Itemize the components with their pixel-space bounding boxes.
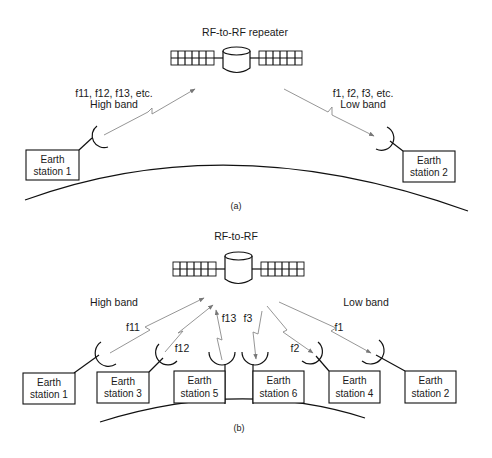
earth-station-5-b: Earth station 5 — [174, 352, 235, 404]
svg-text:Earth: Earth — [267, 375, 291, 386]
earth-surface-curve — [25, 165, 468, 211]
svg-text:station 6: station 6 — [260, 388, 298, 399]
freq-label-f1: f1 — [335, 321, 344, 333]
signal-arrow-f3 — [253, 311, 262, 359]
high-band-label: High band — [90, 98, 138, 110]
svg-text:Earth: Earth — [41, 154, 65, 165]
satellite-icon — [173, 252, 304, 284]
dish-antenna-icon — [92, 126, 108, 148]
earth-station-3-b: Earth station 3 — [97, 344, 177, 403]
earth-station-2-a: Earth station 2 — [376, 127, 455, 182]
freq-label-f13: f13 — [222, 312, 237, 324]
satellite-diagram: RF-to-RF repeater f11, f12, f13, etc. Hi… — [0, 0, 492, 458]
svg-text:Earth: Earth — [188, 375, 212, 386]
satellite-label-a: RF-to-RF repeater — [202, 26, 288, 38]
svg-text:station 5: station 5 — [181, 388, 219, 399]
high-band-label: High band — [90, 296, 138, 308]
caption-a: (a) — [231, 201, 242, 211]
svg-text:station 1: station 1 — [34, 166, 72, 177]
freq-label-f12: f12 — [175, 342, 190, 354]
low-band-label: Low band — [340, 98, 386, 110]
svg-text:Earth: Earth — [417, 155, 441, 166]
satellite-label-b: RF-to-RF — [214, 230, 258, 242]
freq-label-f11: f11 — [126, 321, 140, 333]
earth-station-1-a: Earth station 1 — [26, 126, 108, 180]
diagram-b: RF-to-RF High band Low band f11 f12 — [23, 230, 456, 433]
satellite-icon — [171, 47, 302, 73]
earth-station-6-b: Earth station 6 — [242, 352, 304, 404]
dish-antenna-icon — [362, 340, 384, 364]
dish-antenna-icon — [376, 127, 394, 150]
low-band-label: Low band — [343, 296, 389, 308]
dish-antenna-icon — [95, 342, 116, 366]
svg-text:station 2: station 2 — [412, 388, 450, 399]
freq-label-f2: f2 — [291, 342, 300, 354]
svg-text:Earth: Earth — [37, 377, 61, 388]
svg-text:station 3: station 3 — [104, 388, 142, 399]
svg-text:Earth: Earth — [419, 375, 443, 386]
caption-b: (b) — [234, 423, 245, 433]
svg-text:station 1: station 1 — [30, 389, 68, 400]
freq-label-f3: f3 — [244, 312, 253, 324]
svg-text:Earth: Earth — [343, 375, 367, 386]
svg-text:station 4: station 4 — [336, 388, 374, 399]
svg-text:Earth: Earth — [111, 376, 135, 387]
svg-text:station 2: station 2 — [410, 167, 448, 178]
diagram-a: RF-to-RF repeater f11, f12, f13, etc. Hi… — [25, 26, 468, 211]
